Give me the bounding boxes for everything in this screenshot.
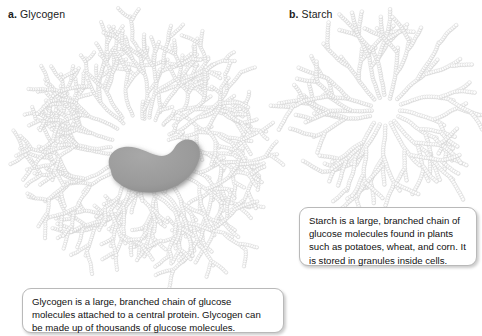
glucose-chain-group xyxy=(9,6,285,289)
caption-glycogen-text: Glycogen is a large, branched chain of g… xyxy=(32,295,274,335)
glycogen-diagram xyxy=(0,18,295,293)
central-protein-blob xyxy=(109,140,200,193)
caption-glycogen: Glycogen is a large, branched chain of g… xyxy=(22,288,284,333)
glucose-chain-group xyxy=(269,7,482,229)
caption-starch: Starch is a large, branched chain of glu… xyxy=(299,207,477,266)
caption-starch-text: Starch is a large, branched chain of glu… xyxy=(309,214,467,267)
starch-diagram xyxy=(288,14,482,206)
